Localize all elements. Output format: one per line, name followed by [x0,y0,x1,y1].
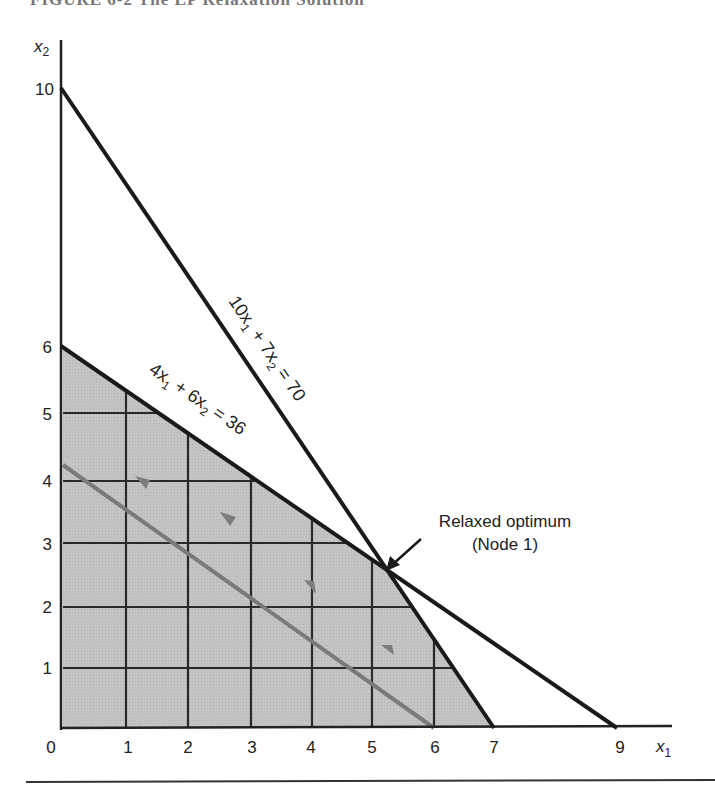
feasible-region [63,346,494,728]
y-tick: 1 [43,659,52,678]
x-tick: 3 [247,738,256,757]
x-tick: 9 [615,738,624,757]
x-tick: 4 [306,738,315,757]
x-axis-label: x1 [655,737,672,760]
y-tick: 3 [43,535,52,554]
lp-relaxation-chart: 1 2 3 4 5 6 10 0 1 2 3 4 5 6 7 9 x2 x1 4… [0,0,715,804]
x-tick: 6 [430,738,439,757]
y-axis-label: x2 [33,37,50,59]
y-tick-labels: 1 2 3 4 5 6 10 [35,80,54,678]
y-tick: 10 [35,80,54,99]
x-tick: 0 [46,738,55,757]
y-tick: 4 [43,472,52,491]
y-tick: 6 [43,338,52,357]
annotation-arrow-shaft [392,539,421,565]
annotation-line-2: (Node 1) [472,535,538,554]
x-tick-labels: 0 1 2 3 4 5 6 7 9 [46,738,624,757]
y-tick: 5 [43,405,52,424]
x-tick: 5 [367,738,376,757]
x-tick: 7 [489,738,498,757]
x-tick: 2 [183,738,192,757]
annotation-line-1: Relaxed optimum [439,512,571,531]
y-tick: 2 [43,598,52,617]
x-tick: 1 [123,738,132,757]
bottom-rule [26,780,715,782]
relaxed-optimum-annotation: Relaxed optimum (Node 1) [386,512,571,571]
